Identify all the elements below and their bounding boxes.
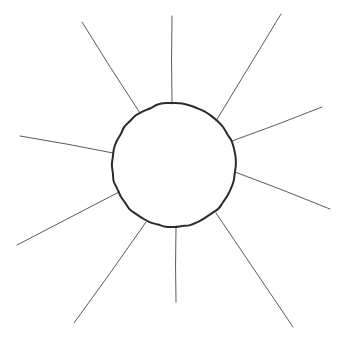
sun-drawing	[0, 0, 351, 343]
drawing-canvas	[0, 0, 351, 343]
